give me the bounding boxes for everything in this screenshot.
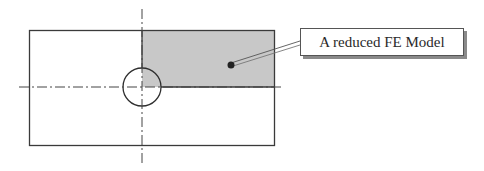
callout-text: A reduced FE Model <box>319 34 444 51</box>
diagram-canvas <box>0 0 484 171</box>
pointer-dot <box>228 62 235 69</box>
reduced-model-region <box>142 30 275 87</box>
callout-label: A reduced FE Model <box>300 28 464 56</box>
